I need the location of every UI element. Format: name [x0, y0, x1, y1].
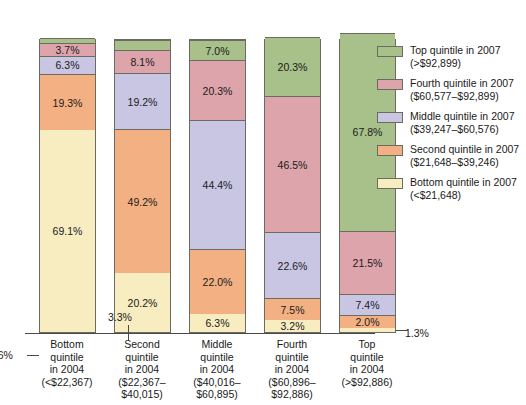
bar-segment[interactable]: 7.4%	[340, 294, 395, 316]
x-axis-label-line: in 2004	[256, 363, 328, 376]
segment-value-label: 7.5%	[281, 304, 305, 316]
stacked-bar[interactable]: 3.2%7.5%22.6%46.5%20.3%	[264, 39, 321, 333]
x-axis-label-line: $60,895)	[181, 388, 253, 401]
x-axis-baseline	[25, 333, 375, 334]
bar-segment[interactable]: 1.3%	[340, 328, 395, 332]
bar-segment[interactable]: 3.2%	[265, 320, 320, 332]
segment-value-label: 21.5%	[353, 257, 383, 269]
legend-text: Top quintile in 2007(>$92,899)	[410, 44, 501, 69]
legend-label-range: ($39,247–$60,576)	[410, 123, 515, 136]
segment-value-label: 49.2%	[128, 196, 158, 208]
callout-label-3-3: 3.3%	[108, 311, 132, 323]
bar-segment[interactable]: 22.0%	[190, 249, 245, 313]
legend-label-primary: Bottom quintile in 2007	[410, 176, 517, 188]
legend-text: Bottom quintile in 2007(<$21,648)	[410, 176, 517, 201]
x-axis-label-line: in 2004	[181, 363, 253, 376]
bar-segment[interactable]: 7.0%	[190, 40, 245, 60]
bar-segment[interactable]: 20.2%	[115, 273, 170, 332]
bar-segment[interactable]: 1.6%	[40, 38, 95, 43]
bar-segment[interactable]: 8.1%	[115, 50, 170, 74]
x-axis-label-line: Middle	[181, 338, 253, 351]
segment-value-label: 19.3%	[53, 97, 83, 109]
segment-value-label: 6.3%	[56, 59, 80, 71]
x-axis-label-line: Top	[331, 338, 403, 351]
bar-segment[interactable]: 46.5%	[265, 96, 320, 232]
stacked-bar[interactable]: 20.2%49.2%19.2%8.1%3.3%	[114, 39, 171, 333]
legend-item[interactable]: Second quintile in 2007($21,648–$39,246)	[377, 143, 525, 168]
segment-value-label: 22.6%	[278, 260, 308, 272]
chart-legend: Top quintile in 2007(>$92,899)Fourth qui…	[377, 44, 525, 209]
bar-segment[interactable]: 3.3%	[115, 40, 170, 50]
legend-text: Second quintile in 2007($21,648–$39,246)	[410, 143, 519, 168]
bar-segment[interactable]: 20.3%	[265, 37, 320, 96]
x-axis-label-line: in 2004	[31, 363, 103, 376]
segment-value-label: 7.4%	[356, 299, 380, 311]
legend-item[interactable]: Top quintile in 2007(>$92,899)	[377, 44, 525, 69]
bar-segment[interactable]: 49.2%	[115, 129, 170, 273]
x-axis-label-line: quintile	[181, 351, 253, 364]
legend-item[interactable]: Bottom quintile in 2007(<$21,648)	[377, 176, 525, 201]
legend-swatch-icon	[377, 145, 403, 156]
legend-swatch-icon	[377, 178, 403, 189]
callout-leader-line	[396, 330, 408, 331]
x-axis-label-line: in 2004	[331, 363, 403, 376]
legend-text: Middle quintile in 2007($39,247–$60,576)	[410, 110, 515, 135]
segment-value-label: 6.3%	[206, 317, 230, 329]
x-axis-label-line: $92,886)	[256, 388, 328, 401]
bar-segment[interactable]: 22.6%	[265, 232, 320, 298]
x-axis-label-line: Second	[106, 338, 178, 351]
legend-label-primary: Fourth quintile in 2007	[410, 77, 514, 89]
legend-swatch-icon	[377, 112, 403, 123]
segment-value-label: 46.5%	[278, 159, 308, 171]
segment-value-label: 7.0%	[206, 45, 230, 57]
legend-swatch-icon	[377, 79, 403, 90]
bar-segment[interactable]: 2.0%	[340, 315, 395, 328]
bar-segment[interactable]: 19.2%	[115, 73, 170, 129]
x-axis-label-line: (>$92,886)	[331, 376, 403, 389]
segment-value-label: 20.3%	[203, 85, 233, 97]
legend-swatch-icon	[377, 46, 403, 57]
x-axis-labels: Bottomquintilein 2004(<$22,367)Secondqui…	[25, 338, 375, 402]
x-axis-label-line: ($60,896–	[256, 376, 328, 389]
plot-area: 69.1%19.3%6.3%3.7%1.6%1.6%20.2%49.2%19.2…	[25, 28, 375, 333]
bar-segment[interactable]: 20.3%	[190, 60, 245, 119]
x-axis-label-line: quintile	[31, 351, 103, 364]
chart-figure: 69.1%19.3%6.3%3.7%1.6%1.6%20.2%49.2%19.2…	[0, 0, 526, 405]
stacked-bar[interactable]: 6.3%22.0%44.4%20.3%7.0%	[189, 39, 246, 333]
legend-label-primary: Second quintile in 2007	[410, 143, 519, 155]
legend-text: Fourth quintile in 2007($60,577–$92,899)	[410, 77, 514, 102]
legend-label-range: ($21,648–$39,246)	[410, 156, 519, 169]
bar-segment[interactable]: 7.5%	[265, 298, 320, 320]
x-axis-label: Topquintilein 2004(>$92,886)	[331, 338, 403, 388]
x-axis-label-line: quintile	[331, 351, 403, 364]
legend-item[interactable]: Middle quintile in 2007($39,247–$60,576)	[377, 110, 525, 135]
segment-value-label: 22.0%	[203, 276, 233, 288]
bar-segment[interactable]: 44.4%	[190, 120, 245, 250]
legend-label-range: ($60,577–$92,899)	[410, 90, 514, 103]
x-axis-label-line: $40,015)	[106, 388, 178, 401]
segment-value-label: 44.4%	[203, 179, 233, 191]
bar-segment[interactable]: 21.5%	[340, 231, 395, 294]
x-axis-label: Middlequintilein 2004($40,016–$60,895)	[181, 338, 253, 401]
bar-segment[interactable]: 3.7%	[40, 43, 95, 56]
segment-value-label: 20.2%	[128, 297, 158, 309]
x-axis-label-line: ($22,367–	[106, 376, 178, 389]
bar-segment[interactable]: 69.1%	[40, 130, 95, 332]
bar-segment[interactable]: 6.3%	[40, 56, 95, 74]
legend-item[interactable]: Fourth quintile in 2007($60,577–$92,899)	[377, 77, 525, 102]
legend-label-primary: Middle quintile in 2007	[410, 110, 515, 122]
x-axis-label: Secondquintilein 2004($22,367–$40,015)	[106, 338, 178, 401]
segment-value-label: 19.2%	[128, 96, 158, 108]
segment-value-label: 20.3%	[278, 61, 308, 73]
x-axis-label: Fourthquintilein 2004($60,896–$92,886)	[256, 338, 328, 401]
x-axis-label: Bottomquintilein 2004(<$22,367)	[31, 338, 103, 388]
stacked-bar[interactable]: 69.1%19.3%6.3%3.7%1.6%	[39, 39, 96, 333]
x-axis-label-line: (<$22,367)	[31, 376, 103, 389]
bar-segment[interactable]: 19.3%	[40, 74, 95, 130]
legend-label-range: (>$92,899)	[410, 57, 501, 70]
bar-segment[interactable]: 6.3%	[190, 314, 245, 332]
x-axis-label-line: quintile	[106, 351, 178, 364]
x-axis-label-line: ($40,016–	[181, 376, 253, 389]
x-axis-label-line: Bottom	[31, 338, 103, 351]
callout-label-1-3: 1.3%	[405, 327, 429, 339]
